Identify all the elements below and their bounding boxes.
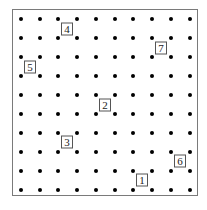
grid-dot: [169, 131, 173, 135]
grid-dot: [19, 131, 23, 135]
grid-dot: [131, 93, 135, 97]
grid-dot: [56, 55, 60, 59]
grid-dot: [131, 188, 135, 192]
grid-dot: [19, 74, 23, 78]
grid-dot: [169, 112, 173, 116]
grid-dot: [188, 74, 192, 78]
grid-dot: [169, 55, 173, 59]
grid-dot: [131, 55, 135, 59]
grid-dot: [131, 169, 135, 173]
grid-dot: [56, 112, 60, 116]
grid-dot: [19, 93, 23, 97]
grid-dot: [131, 17, 135, 21]
grid-dot: [169, 74, 173, 78]
grid-dot: [75, 36, 79, 40]
grid-dot: [150, 74, 154, 78]
grid-dot: [19, 112, 23, 116]
grid-dot: [150, 36, 154, 40]
grid-dot: [38, 169, 42, 173]
number-label-1: 1: [136, 174, 148, 187]
grid-dot: [150, 93, 154, 97]
grid-dot: [169, 188, 173, 192]
grid-dot: [94, 131, 98, 135]
grid-dot: [38, 74, 42, 78]
grid-dot: [150, 17, 154, 21]
grid-dot: [113, 131, 117, 135]
grid-dot: [94, 36, 98, 40]
grid-dot: [94, 169, 98, 173]
grid-dot: [19, 36, 23, 40]
grid-dot: [113, 55, 117, 59]
grid-dot: [75, 131, 79, 135]
grid-dot: [75, 74, 79, 78]
grid-dot: [113, 188, 117, 192]
grid-dot: [56, 169, 60, 173]
grid-dot: [38, 131, 42, 135]
grid-dot: [19, 17, 23, 21]
grid-dot: [188, 112, 192, 116]
grid-dot: [19, 55, 23, 59]
grid-dot: [113, 93, 117, 97]
grid-dot: [169, 17, 173, 21]
grid-dot: [113, 17, 117, 21]
grid-dot: [75, 112, 79, 116]
grid-dot: [169, 150, 173, 154]
grid-dot: [188, 169, 192, 173]
grid-dot: [75, 55, 79, 59]
grid-dot: [131, 74, 135, 78]
grid-dot: [75, 17, 79, 21]
grid-dot: [113, 112, 117, 116]
grid-dot: [150, 131, 154, 135]
grid-dot: [94, 74, 98, 78]
grid-dot: [38, 55, 42, 59]
grid-dot: [94, 150, 98, 154]
grid-dot: [150, 55, 154, 59]
grid-dot: [19, 188, 23, 192]
grid-dot: [131, 36, 135, 40]
grid-dot: [38, 36, 42, 40]
grid-dot: [188, 17, 192, 21]
grid-dot: [188, 188, 192, 192]
grid-dot: [56, 74, 60, 78]
number-label-3: 3: [61, 136, 73, 149]
grid-dot: [19, 169, 23, 173]
number-label-4: 4: [61, 23, 73, 36]
grid-dot: [150, 169, 154, 173]
number-label-5: 5: [24, 61, 36, 74]
grid-dot: [113, 36, 117, 40]
grid-dot: [169, 93, 173, 97]
grid-dot: [188, 55, 192, 59]
grid-dot: [169, 36, 173, 40]
grid-dot: [38, 112, 42, 116]
grid-dot: [94, 17, 98, 21]
grid-dot: [94, 188, 98, 192]
grid-dot: [188, 36, 192, 40]
grid-dot: [150, 150, 154, 154]
grid-dot: [94, 112, 98, 116]
grid-dot: [38, 188, 42, 192]
grid-dot: [38, 93, 42, 97]
grid-dot: [150, 112, 154, 116]
grid-dot: [131, 112, 135, 116]
grid-dot: [94, 93, 98, 97]
grid-dot: [188, 93, 192, 97]
grid-dot: [113, 169, 117, 173]
grid-dot: [56, 93, 60, 97]
number-label-7: 7: [155, 42, 167, 55]
grid-dot: [56, 131, 60, 135]
grid-dot: [56, 188, 60, 192]
grid-dot: [75, 150, 79, 154]
grid-dot: [56, 36, 60, 40]
number-label-2: 2: [99, 99, 111, 112]
grid-dot: [94, 55, 98, 59]
grid-dot: [113, 74, 117, 78]
grid-dot: [75, 93, 79, 97]
grid-dot: [188, 131, 192, 135]
number-label-6: 6: [174, 155, 186, 168]
grid-dot: [113, 150, 117, 154]
grid-dot: [169, 169, 173, 173]
grid-dot: [75, 169, 79, 173]
grid-dot: [56, 17, 60, 21]
grid-dot: [38, 17, 42, 21]
grid-dot: [56, 150, 60, 154]
